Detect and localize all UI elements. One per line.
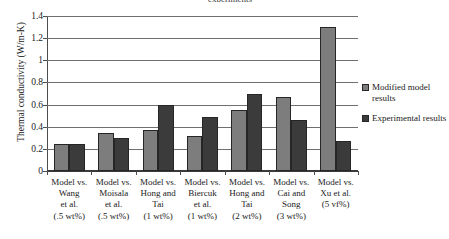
legend-item-modified-model: Modified model results xyxy=(362,82,449,104)
x-axis-tick-mark xyxy=(180,171,181,175)
y-axis-tick-label: 0.8 xyxy=(31,77,43,87)
bar-group xyxy=(314,16,358,171)
y-axis-tick-label: 1.2 xyxy=(31,33,43,43)
bar-experimental xyxy=(336,141,352,171)
chart-legend: Modified model results Experimental resu… xyxy=(362,82,449,133)
y-axis-tick-label: 0.6 xyxy=(31,100,43,110)
chart-title: experiments xyxy=(150,0,310,2)
bar-group xyxy=(180,16,224,171)
x-axis-tick-mark xyxy=(91,171,92,175)
legend-swatch-icon-modified-model xyxy=(362,84,369,91)
bar-modified-model xyxy=(231,110,247,171)
bar-modified-model xyxy=(320,27,336,171)
bar-experimental xyxy=(247,94,263,172)
y-axis-tick-label: 1.4 xyxy=(31,11,43,21)
x-axis-category-label: Model vs.Hong andTai(1 wt%) xyxy=(136,177,180,222)
gridline xyxy=(47,171,358,172)
x-axis-tick-mark xyxy=(47,171,48,175)
plot-area: 00.20.40.60.811.21.4 xyxy=(47,16,358,171)
x-axis-category-label: Model vs.Biercuket al.(1 wt%) xyxy=(180,177,224,222)
bar-experimental xyxy=(158,105,174,171)
bar-experimental xyxy=(202,117,218,171)
y-axis-tick-label: 0.2 xyxy=(31,144,43,154)
y-axis-tick-label: 0.4 xyxy=(31,122,43,132)
legend-label-experimental: Experimental results xyxy=(372,113,449,124)
x-axis-category-label: Model vs.Hong andTai(2 wt%) xyxy=(225,177,269,222)
bar-modified-model xyxy=(54,144,70,171)
bar-modified-model xyxy=(98,133,114,171)
x-axis-category-label: Model vs.Xu et al.(5 vf%) xyxy=(314,177,358,222)
x-axis-tick-mark xyxy=(314,171,315,175)
x-axis-tick-mark xyxy=(225,171,226,175)
y-axis-tick-label: 1 xyxy=(38,55,43,65)
thermal-conductivity-bar-chart: experiments Thermal conductivity (W/m-K)… xyxy=(0,0,449,239)
bar-group xyxy=(269,16,313,171)
bar-experimental xyxy=(114,138,130,171)
bar-group xyxy=(47,16,91,171)
x-axis-category-label: Model vs.Moisalaet al.(.5 wt%) xyxy=(91,177,135,222)
x-axis-tick-mark xyxy=(136,171,137,175)
x-axis-category-label: Model vs.Cai andSong(3 wt%) xyxy=(269,177,313,222)
x-axis-tick-mark xyxy=(358,171,359,175)
y-axis-tick-label: 0 xyxy=(38,166,43,176)
x-axis-category-label: Model vs.Wanget al.(.5 wt%) xyxy=(47,177,91,222)
bar-group xyxy=(91,16,135,171)
bar-groups xyxy=(47,16,358,171)
y-axis-title: Thermal conductivity (W/m-K) xyxy=(16,0,26,167)
bar-group xyxy=(136,16,180,171)
legend-label-modified-model: Modified model results xyxy=(372,82,449,104)
legend-item-experimental: Experimental results xyxy=(362,113,449,124)
bar-modified-model xyxy=(276,97,292,171)
x-axis-tick-mark xyxy=(269,171,270,175)
legend-swatch-icon-experimental xyxy=(362,115,369,122)
bar-modified-model xyxy=(187,136,203,171)
x-axis-labels: Model vs.Wanget al.(.5 wt%)Model vs.Mois… xyxy=(47,177,358,222)
bar-experimental xyxy=(69,144,85,171)
bar-experimental xyxy=(291,120,307,171)
bar-modified-model xyxy=(143,130,159,171)
bar-group xyxy=(225,16,269,171)
